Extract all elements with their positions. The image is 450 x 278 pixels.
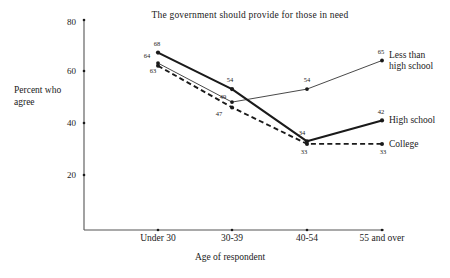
series-point-hs-55-and-over [380,118,384,122]
point-label-college-30-39: 47 [211,110,227,117]
series-line-less-than-high-school [158,61,382,103]
y-tick-mark-60 [83,70,86,73]
point-label-hs-30-39: 54 [222,76,238,83]
legend-label-college: College [389,139,419,150]
series-point-hs-under-30 [156,51,160,55]
chart-plot-area [0,0,450,278]
point-label-lths-30-39: 49 [215,93,231,100]
x-tick-mark-40-54 [306,229,309,232]
series-point-hs-30-39 [230,87,234,91]
series-point-college-30-39 [230,105,234,109]
x-tick-mark-30-39 [231,229,234,232]
series-point-college-55-and-over [380,142,384,146]
series-point-lths-55-and-over [380,59,384,63]
series-point-lths-30-39 [230,100,234,104]
point-label-hs-55-and-over: 42 [373,108,389,115]
series-point-lths-40-54 [305,87,309,91]
y-tick-mark-80 [83,19,86,22]
series-line-college [158,66,382,144]
point-label-hs-40-54: 34 [294,129,310,136]
legend-label-lths-line2: high school [389,61,433,72]
legend-label-less-than-high-school: Less than high school [389,50,433,72]
point-label-college-under-30: 63 [145,67,161,74]
chart-container: The government should provide for those … [0,0,450,278]
x-tick-mark-55-and-over [381,229,384,232]
point-label-lths-55-and-over: 65 [373,48,389,55]
y-tick-mark-20 [83,174,86,177]
series-line-high-school [158,53,382,142]
x-tick-mark-under-30 [157,229,160,232]
point-label-hs-under-30: 68 [149,40,165,47]
legend-label-lths-line1: Less than [389,50,433,61]
series-point-college-40-54 [305,142,309,146]
y-tick-mark-40 [83,122,86,125]
point-label-lths-40-54: 54 [299,76,315,83]
point-label-college-40-54: 33 [296,148,312,155]
legend-label-high-school: High school [389,115,435,126]
point-label-lths-under-30: 64 [139,52,155,59]
